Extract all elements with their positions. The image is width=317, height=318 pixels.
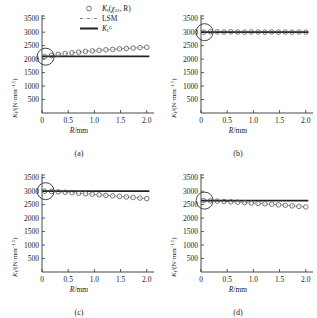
svg-text:500: 500 (28, 95, 40, 104)
solid-line-icon (78, 24, 100, 33)
legend-label-kg: KIG (100, 24, 112, 33)
svg-text:2000: 2000 (183, 214, 198, 223)
svg-text:500: 500 (187, 95, 199, 104)
circle-marker-icon (78, 4, 100, 13)
plot-svg-d: 50010001500200025003000350000.51.01.52.0 (159, 159, 317, 318)
x-axis-label-c: R/mm (0, 285, 158, 294)
svg-text:1000: 1000 (183, 82, 198, 91)
svg-text:2500: 2500 (183, 41, 198, 50)
plot-area-b: 50010001500200025003000350000.51.01.52.0 (159, 0, 317, 159)
legend-entry-kg: KIG (78, 24, 131, 33)
legend: KI(χ22, R) LSM KIG (78, 4, 131, 34)
svg-text:1500: 1500 (183, 227, 198, 236)
svg-text:500: 500 (28, 254, 40, 263)
x-axis-label-d: R/mm (159, 285, 317, 294)
svg-text:1.0: 1.0 (249, 275, 259, 284)
svg-text:1000: 1000 (24, 241, 39, 250)
panel-a: 50010001500200025003000350000.51.01.52.0… (0, 0, 158, 159)
panel-b: 50010001500200025003000350000.51.01.52.0… (159, 0, 317, 159)
svg-text:0: 0 (199, 275, 203, 284)
x-axis-label-a: R/mm (0, 126, 158, 135)
svg-text:3500: 3500 (24, 173, 39, 182)
plot-area-d: 50010001500200025003000350000.51.01.52.0 (159, 159, 317, 318)
svg-text:1.5: 1.5 (275, 275, 285, 284)
legend-entry-lsm: LSM (78, 14, 131, 23)
figure-four-panel-chart: 50010001500200025003000350000.51.01.52.0… (0, 0, 317, 318)
panel-c: 50010001500200025003000350000.51.01.52.0… (0, 159, 158, 318)
panel-caption-d: (d) (159, 308, 317, 317)
svg-text:1000: 1000 (24, 82, 39, 91)
legend-label-kchi: KI(χ22, R) (100, 4, 131, 13)
svg-text:2.0: 2.0 (301, 116, 311, 125)
svg-text:1.5: 1.5 (116, 275, 126, 284)
svg-text:0: 0 (40, 116, 44, 125)
y-axis-label-a: KI/(N·mm−1.5) (11, 79, 19, 119)
x-axis-label-b: R/mm (159, 126, 317, 135)
svg-text:0.5: 0.5 (64, 116, 74, 125)
svg-text:3500: 3500 (183, 14, 198, 23)
panel-caption-b: (b) (159, 149, 317, 158)
y-axis-label-c: KI/(N·mm−1.5) (11, 238, 19, 278)
panel-caption-c: (c) (0, 308, 158, 317)
svg-text:3500: 3500 (183, 173, 198, 182)
plot-svg-b: 50010001500200025003000350000.51.01.52.0 (159, 0, 317, 159)
svg-text:0.5: 0.5 (223, 275, 233, 284)
legend-label-lsm: LSM (100, 14, 117, 23)
plot-svg-c: 50010001500200025003000350000.51.01.52.0 (0, 159, 158, 318)
svg-text:1.5: 1.5 (275, 116, 285, 125)
svg-text:1500: 1500 (24, 68, 39, 77)
svg-text:2000: 2000 (24, 214, 39, 223)
svg-text:3000: 3000 (24, 28, 39, 37)
svg-text:1.0: 1.0 (90, 275, 100, 284)
svg-text:1.0: 1.0 (249, 116, 259, 125)
panel-d: 50010001500200025003000350000.51.01.52.0… (159, 159, 317, 318)
svg-text:0.5: 0.5 (223, 116, 233, 125)
svg-text:1000: 1000 (183, 241, 198, 250)
svg-text:1.5: 1.5 (116, 116, 126, 125)
svg-text:3000: 3000 (183, 187, 198, 196)
svg-text:2500: 2500 (24, 200, 39, 209)
svg-text:3500: 3500 (24, 14, 39, 23)
svg-text:0.5: 0.5 (64, 275, 74, 284)
panel-caption-a: (a) (0, 149, 158, 158)
svg-text:2.0: 2.0 (142, 116, 152, 125)
svg-text:2.0: 2.0 (301, 275, 311, 284)
svg-text:2000: 2000 (183, 55, 198, 64)
legend-entry-marker: KI(χ22, R) (78, 4, 131, 13)
plot-area-c: 50010001500200025003000350000.51.01.52.0 (0, 159, 158, 318)
svg-text:1.0: 1.0 (90, 116, 100, 125)
svg-text:2.0: 2.0 (142, 275, 152, 284)
svg-text:1500: 1500 (183, 68, 198, 77)
y-axis-label-d: KI/(N·mm−1.5) (170, 238, 178, 278)
svg-text:2500: 2500 (24, 41, 39, 50)
dashed-line-icon (78, 14, 100, 23)
svg-text:0: 0 (199, 116, 203, 125)
svg-text:1500: 1500 (24, 227, 39, 236)
y-axis-label-b: KI/(N·mm−1.5) (170, 79, 178, 119)
svg-text:0: 0 (40, 275, 44, 284)
svg-text:500: 500 (187, 254, 199, 263)
